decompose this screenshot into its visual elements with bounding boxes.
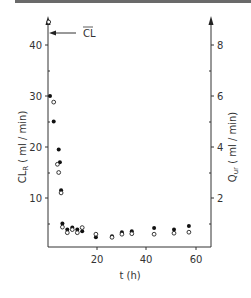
y-tick-label: 40 xyxy=(29,40,42,51)
data-point-open xyxy=(130,232,134,236)
y-right-tick-label: 6 xyxy=(217,91,223,102)
right-axis-arrow-icon xyxy=(209,16,214,25)
x-tick-label: 60 xyxy=(190,254,203,265)
y-right-tick-label: 2 xyxy=(217,193,223,204)
data-point-open xyxy=(52,100,56,104)
data-point-filled xyxy=(52,120,56,124)
data-point-open xyxy=(120,232,124,236)
data-point-open xyxy=(61,225,65,229)
data-point-open xyxy=(75,231,79,235)
annotation-label: CL xyxy=(83,28,96,39)
data-point-open xyxy=(94,232,98,236)
data-point-filled xyxy=(152,226,156,230)
y-left-axis-title: CLR ( ml / min) xyxy=(17,111,30,184)
data-point-open xyxy=(187,230,191,234)
data-point-open xyxy=(110,235,114,239)
data-point-open xyxy=(59,191,63,195)
chart: 40 30 20 10 8 6 4 2 20 40 60 t (h) CLR (… xyxy=(0,0,251,298)
annotation-arrow-icon xyxy=(49,31,56,36)
y-tick-label: 30 xyxy=(29,91,42,102)
x-axis-title: t (h) xyxy=(119,270,140,281)
data-point-filled xyxy=(48,94,52,98)
data-point-filled xyxy=(187,224,191,228)
data-point-open xyxy=(152,232,156,236)
x-tick-label: 20 xyxy=(91,254,104,265)
y-right-tick-label: 8 xyxy=(217,40,223,51)
y-right-axis-title: Qur ( ml / min) xyxy=(227,112,240,183)
x-tick-label: 40 xyxy=(140,254,153,265)
data-point-filled xyxy=(57,148,61,152)
data-point-open xyxy=(172,231,176,235)
data-point-open xyxy=(57,171,61,175)
data-point-open xyxy=(65,231,69,235)
series-clr-filled xyxy=(48,94,191,239)
data-point-open xyxy=(47,20,51,24)
y-tick-label: 10 xyxy=(29,193,42,204)
data-point-open xyxy=(70,228,74,232)
y-right-tick-label: 4 xyxy=(217,142,223,153)
y-tick-label: 20 xyxy=(29,142,42,153)
axes xyxy=(48,20,211,247)
data-point-open xyxy=(80,226,84,230)
series-qur-open xyxy=(47,20,191,239)
data-point-open xyxy=(56,162,60,166)
mean-clearance-annotation: CL xyxy=(49,27,96,39)
